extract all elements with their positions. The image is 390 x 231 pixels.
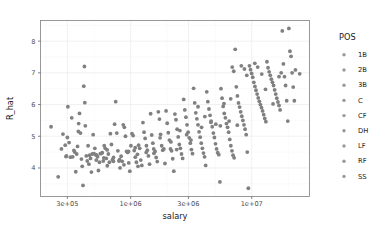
data-point [102,156,106,160]
legend-item-ss[interactable]: SS [342,173,366,181]
data-point [200,125,204,129]
data-point [268,73,272,77]
data-point [267,70,271,74]
data-point [249,68,253,72]
data-point [155,160,159,164]
data-point [97,169,101,173]
y-axis-title: R_hat [5,96,15,120]
data-point [128,169,132,173]
data-point [283,75,287,79]
data-point [253,61,257,65]
data-point [80,164,84,168]
x-tick-label: 3e+06 [177,200,199,208]
data-point [127,150,131,154]
data-point [81,184,85,188]
legend-item-cf[interactable]: CF [342,112,366,120]
legend-item-label: 3B [358,81,367,89]
data-point [114,100,118,104]
data-point [78,112,82,116]
data-point [131,134,135,138]
data-point [76,130,80,134]
data-point [294,68,298,72]
data-point [169,140,173,144]
data-point [74,170,78,174]
data-point [239,64,243,68]
data-point [98,160,102,164]
data-point [210,125,214,129]
legend-item-1b[interactable]: 1B [342,51,367,59]
legend-key-dot-icon [342,144,345,147]
data-point [87,162,91,166]
data-point [230,65,234,69]
data-point [222,102,226,106]
data-point [271,102,275,106]
data-point [243,67,247,71]
data-point [77,122,81,126]
data-point [281,62,285,66]
data-point [111,159,115,163]
data-point [190,148,194,152]
legend-item-label: CF [358,112,367,120]
data-point [218,180,222,184]
data-point [158,117,162,121]
data-point [67,141,71,145]
data-point [179,146,183,150]
legend-item-3b[interactable]: 3B [342,81,367,89]
legend: POS1B2B3BCCFDHLFRFSS [339,32,368,181]
data-point [139,158,143,162]
legend-item-label: RF [358,157,367,165]
data-point [94,158,98,162]
data-point [165,121,169,125]
data-point [220,96,224,100]
data-point [101,159,105,163]
data-point [83,101,87,105]
data-point [89,157,93,161]
data-point [127,161,131,165]
legend-item-2b[interactable]: 2B [342,66,367,74]
data-point [246,186,250,190]
data-point [292,99,296,103]
data-point [236,94,240,98]
data-point [230,149,234,153]
legend-item-c[interactable]: C [342,97,363,105]
data-point [182,98,186,102]
data-point [213,136,217,140]
data-point [61,132,65,136]
data-point [185,123,189,127]
legend-key-dot-icon [342,68,345,71]
data-point [252,80,256,84]
data-point [232,69,236,73]
chart-svg: 45678 3e+051e+063e+061e+07 R_hat salary … [0,0,390,231]
x-tick-label: 3e+05 [56,200,78,208]
data-point [200,146,204,150]
panel-group [41,21,310,197]
data-point [214,142,218,146]
data-point [211,131,215,135]
data-point [194,111,198,115]
data-point [141,121,145,125]
legend-item-rf[interactable]: RF [342,157,366,165]
y-axis: 45678 [31,38,40,173]
data-point [245,73,249,77]
data-point [205,90,209,94]
legend-key-dot-icon [342,53,345,56]
legend-item-lf[interactable]: LF [342,142,365,150]
data-point [86,144,90,148]
data-point [124,134,128,138]
legend-item-label: SS [358,173,367,181]
data-point [298,72,302,76]
data-point [280,29,284,33]
data-point [156,110,160,114]
data-point [142,130,146,134]
data-point [244,133,248,137]
data-point [171,157,175,161]
data-point [261,109,265,113]
data-point [180,152,184,156]
legend-item-dh[interactable]: DH [342,127,368,135]
x-tick-label: 1e+06 [120,200,142,208]
data-point [198,135,202,139]
data-point [207,107,211,111]
data-point [136,164,140,168]
legend-key-dot-icon [342,114,345,117]
data-point [265,60,269,64]
